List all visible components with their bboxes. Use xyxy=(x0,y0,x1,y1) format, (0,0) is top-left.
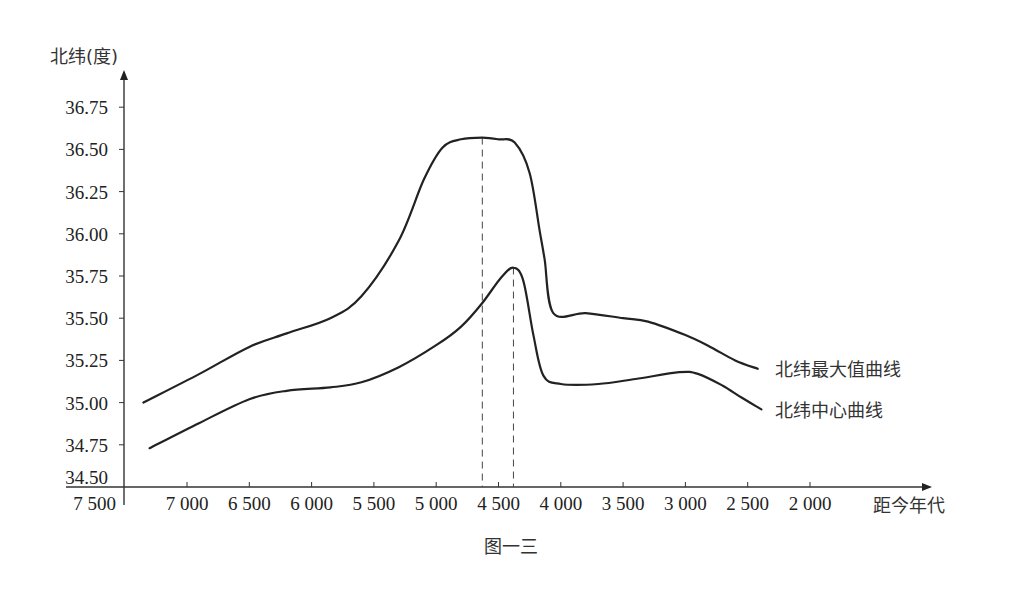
x-tick-label: 3 500 xyxy=(602,493,645,514)
x-tick-label: 2 500 xyxy=(726,493,769,514)
x-axis: 7 5007 0006 5006 0005 5005 0004 5004 000… xyxy=(66,482,930,514)
x-tick-label: 4 000 xyxy=(539,493,582,514)
y-axis-title: 北纬(度) xyxy=(50,46,118,67)
dashed-reference-lines xyxy=(482,138,513,487)
y-axis: 34.5034.7535.0035.2535.5035.7536.0036.25… xyxy=(65,72,124,505)
y-tick-label: 35.00 xyxy=(65,393,108,414)
chart-canvas: 34.5034.7535.0035.2535.5035.7536.0036.25… xyxy=(0,0,1028,591)
x-tick-label: 2 000 xyxy=(789,493,832,514)
legend-label-max: 北纬最大值曲线 xyxy=(775,359,901,380)
x-tick-label: 6 000 xyxy=(290,493,333,514)
series-line-center-latitude xyxy=(150,268,762,449)
y-tick-label: 36.25 xyxy=(65,182,108,203)
y-tick-label: 34.50 xyxy=(65,467,108,488)
x-tick-label: 6 500 xyxy=(228,493,271,514)
y-axis-ticks: 34.5034.7535.0035.2535.5035.7536.0036.25… xyxy=(65,97,124,488)
x-tick-label: 7 000 xyxy=(166,493,209,514)
x-tick-label: 3 000 xyxy=(664,493,707,514)
y-tick-label: 35.50 xyxy=(65,308,108,329)
y-tick-label: 36.50 xyxy=(65,139,108,160)
x-tick-label: 7 500 xyxy=(73,493,116,514)
y-tick-label: 36.00 xyxy=(65,224,108,245)
legend-label-center: 北纬中心曲线 xyxy=(775,400,883,421)
x-tick-label: 5 000 xyxy=(415,493,458,514)
x-axis-title: 距今年代 xyxy=(873,495,945,516)
y-tick-label: 35.75 xyxy=(65,266,108,287)
series-line-max-latitude xyxy=(143,138,757,403)
y-tick-label: 35.25 xyxy=(65,350,108,371)
y-tick-label: 34.75 xyxy=(65,435,108,456)
y-tick-label: 36.75 xyxy=(65,97,108,118)
figure-caption: 图一三 xyxy=(484,536,538,557)
x-tick-label: 5 500 xyxy=(353,493,396,514)
x-tick-label: 4 500 xyxy=(477,493,520,514)
